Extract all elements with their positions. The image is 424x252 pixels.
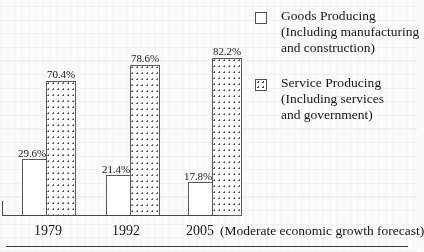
bar-value-label: 17.8% <box>184 170 212 182</box>
x-tick-label-1979: 1979 <box>34 222 62 240</box>
legend-label-line2: (Including services <box>281 91 417 107</box>
y-axis-tick <box>2 201 3 216</box>
bar-service-1979: 70.4% <box>46 81 76 216</box>
bar-service-2005: 82.2% <box>212 58 242 216</box>
bar-goods-1992: 21.4% <box>106 175 131 216</box>
bar-value-label: 78.6% <box>131 52 159 64</box>
x-tick-label-1992: 1992 <box>112 222 140 240</box>
bar-value-label: 21.4% <box>102 163 130 175</box>
legend-item-goods-producing: Goods Producing (Including manufacturing… <box>255 8 417 56</box>
bar-value-label: 70.4% <box>47 68 75 80</box>
bar-value-label: 29.6% <box>18 147 46 159</box>
bar-goods-1979: 29.6% <box>22 159 47 216</box>
bar-service-1992: 78.6% <box>130 65 160 216</box>
legend-label-line3: and construction) <box>281 40 417 56</box>
x-axis-forecast-note: (Moderate economic growth forecast) <box>220 222 424 240</box>
legend-label-line1: Service Producing <box>281 75 417 91</box>
legend-label-line3: and government) <box>281 107 417 123</box>
legend-label-line1: Goods Producing <box>281 8 417 24</box>
x-axis-baseline <box>2 215 228 216</box>
x-tick-label-2005: 2005 <box>186 222 214 240</box>
bar-value-label: 82.2% <box>213 45 241 57</box>
page-bottom-rule <box>6 246 408 247</box>
chart-legend: Goods Producing (Including manufacturing… <box>255 8 417 123</box>
bar-goods-2005: 17.8% <box>188 182 213 216</box>
plot-area: 29.6% 70.4% 21.4% 78.6% 17.8% 82.2% <box>0 0 232 216</box>
empty-square-swatch-icon <box>255 12 267 24</box>
bar-group-1992: 21.4% 78.6% <box>106 24 160 216</box>
legend-item-service-producing: Service Producing (Including services an… <box>255 75 417 123</box>
legend-label-line2: (Including manufacturing <box>281 24 417 40</box>
dotted-square-swatch-icon <box>255 79 267 91</box>
bar-group-2005: 17.8% 82.2% <box>188 24 242 216</box>
bar-group-1979: 29.6% 70.4% <box>22 24 76 216</box>
